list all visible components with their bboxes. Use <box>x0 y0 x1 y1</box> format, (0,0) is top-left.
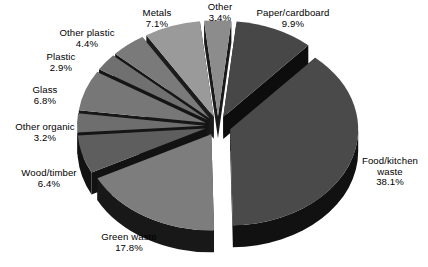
pie-chart-svg <box>0 0 428 267</box>
pie-chart: Paper/cardboard9.9%Food/kitchenwaste38.1… <box>0 0 428 267</box>
